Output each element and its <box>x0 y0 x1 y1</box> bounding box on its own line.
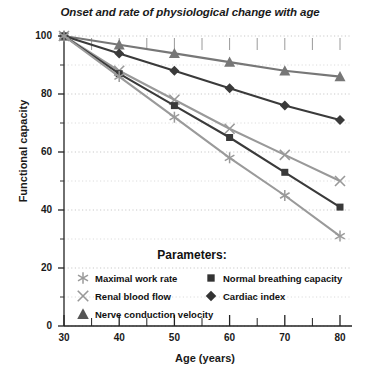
legend-column-right: Normal breathing capacityCardiac index <box>203 270 342 306</box>
series-line <box>64 36 340 236</box>
legend-title: Parameters: <box>70 248 314 262</box>
data-point-marker-diamond <box>169 66 179 76</box>
legend-entry: Cardiac index <box>203 288 342 304</box>
legend-entry: Renal blood flow <box>75 288 213 304</box>
legend-entry: Maximal work rate <box>75 270 213 286</box>
series-renal-blood-flow <box>59 31 345 186</box>
legend-entry-label: Renal blood flow <box>95 291 171 302</box>
data-point-marker-square <box>207 274 214 281</box>
data-point-marker-asterisk <box>170 112 180 123</box>
legend-marker-square-icon <box>203 271 219 285</box>
y-tick-label-20: 20 <box>22 262 52 273</box>
data-point-marker-square <box>171 102 178 109</box>
data-point-marker-square <box>226 134 233 141</box>
x-axis-label: Age (years) <box>55 352 355 364</box>
data-point-marker-asterisk <box>335 231 345 242</box>
x-tick-label-70: 70 <box>270 332 300 343</box>
legend-entry-label: Normal breathing capacity <box>223 273 342 284</box>
legend-marker-diamond-icon <box>203 289 219 303</box>
data-point-marker-square <box>337 204 344 211</box>
data-point-marker-diamond <box>114 48 124 58</box>
data-point-marker-diamond <box>335 115 345 125</box>
legend-marker-x-icon <box>75 289 91 303</box>
data-point-marker-x <box>280 150 290 160</box>
data-point-marker-diamond <box>225 83 235 93</box>
data-point-marker-x <box>225 124 235 134</box>
x-tick-label-80: 80 <box>325 332 355 343</box>
y-axis-label: Functional capacity <box>17 81 29 221</box>
data-point-marker-asterisk <box>78 272 88 284</box>
x-tick-label-40: 40 <box>104 332 134 343</box>
data-point-marker-x <box>78 291 89 302</box>
x-tick-label-60: 60 <box>215 332 245 343</box>
data-point-marker-diamond <box>280 101 290 111</box>
data-point-marker-triangle <box>77 308 89 319</box>
data-point-marker-x <box>335 176 345 186</box>
legend-entry-label: Nerve conduction velocity <box>95 309 213 320</box>
data-point-marker-diamond <box>206 291 217 302</box>
legend-marker-triangle-icon <box>75 307 91 321</box>
legend-entry: Nerve conduction velocity <box>75 306 213 322</box>
x-tick-label-30: 30 <box>49 332 79 343</box>
chart-figure: Onset and rate of physiological change w… <box>0 0 380 375</box>
data-point-marker-asterisk <box>280 190 290 201</box>
legend-entry: Normal breathing capacity <box>203 270 342 286</box>
legend-entry-label: Maximal work rate <box>95 273 177 284</box>
x-tick-label-50: 50 <box>159 332 189 343</box>
legend-marker-asterisk-icon <box>75 271 91 285</box>
y-tick-label-0: 0 <box>22 320 52 331</box>
legend-column-left: Maximal work rateRenal blood flowNerve c… <box>75 270 213 324</box>
y-tick-label-100: 100 <box>22 30 52 41</box>
legend-entry-label: Cardiac index <box>223 291 285 302</box>
data-point-marker-asterisk <box>225 152 235 163</box>
series-normal-breathing-capacity <box>61 33 344 211</box>
data-point-marker-square <box>281 169 288 176</box>
